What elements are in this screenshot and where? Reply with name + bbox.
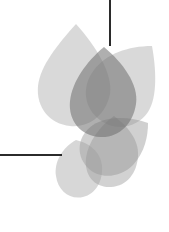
abstract-flower-graphic: [0, 0, 169, 232]
image-canvas: Abstract Flower Mark: [0, 0, 169, 232]
